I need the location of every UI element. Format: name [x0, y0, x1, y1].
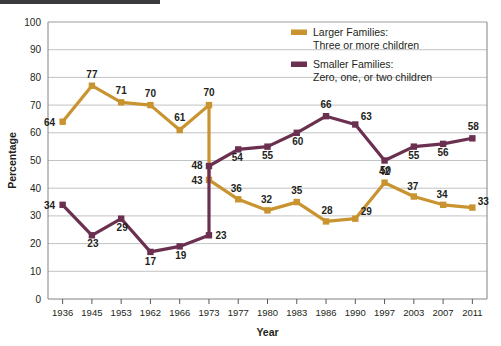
y-tick-label-40: 40	[30, 183, 42, 194]
y-tick-label-10: 10	[30, 266, 42, 277]
top-decorative-rule	[0, 0, 160, 4]
y-tick-label-0: 0	[35, 294, 41, 305]
data-label-smaller-families: 60	[292, 136, 304, 147]
data-label-smaller-families: 54	[232, 152, 244, 163]
x-tick-label-1973: 1973	[198, 307, 219, 318]
x-tick-label-1980: 1980	[257, 307, 278, 318]
data-label-larger-families: 70	[145, 88, 157, 99]
y-axis-title: Percentage	[6, 132, 18, 189]
data-marker-smaller-families	[323, 113, 329, 119]
data-label-larger-families: 61	[174, 112, 186, 123]
legend-label-line2: Zero, one, or two children	[313, 71, 432, 83]
x-tick-label-1966: 1966	[169, 307, 190, 318]
data-label-smaller-families: 19	[175, 250, 187, 261]
y-tick-label-30: 30	[30, 210, 42, 221]
data-label-larger-families: 33	[478, 196, 490, 207]
data-label-larger-families: 34	[437, 189, 449, 200]
data-label-larger-families: 32	[261, 194, 273, 205]
data-label-smaller-families: 34	[44, 200, 56, 211]
data-marker-larger-families	[206, 102, 212, 108]
data-label-larger-families: 70	[203, 87, 215, 98]
data-marker-larger-families	[352, 215, 358, 221]
data-label-smaller-families: 48	[191, 160, 203, 171]
data-marker-larger-families	[147, 102, 153, 108]
data-marker-larger-families	[89, 83, 95, 89]
data-marker-larger-families	[469, 204, 475, 210]
x-axis-title: Year	[256, 326, 278, 338]
data-marker-larger-families	[59, 119, 65, 125]
data-label-smaller-families: 23	[87, 238, 99, 249]
data-marker-larger-families	[440, 202, 446, 208]
legend-label-line1: Larger Families:	[313, 26, 388, 38]
legend-label-line1: Smaller Families:	[313, 58, 394, 70]
y-tick-label-20: 20	[30, 238, 42, 249]
x-tick-label-2011: 2011	[462, 307, 482, 318]
data-label-smaller-families: 63	[361, 111, 373, 122]
data-marker-smaller-families	[352, 121, 358, 127]
y-tick-label-90: 90	[30, 44, 42, 55]
x-tick-label-1997: 1997	[374, 307, 395, 318]
x-tick-label-1945: 1945	[81, 307, 102, 318]
data-marker-larger-families	[294, 199, 300, 205]
y-tick-label-80: 80	[30, 72, 42, 83]
legend-label-line2: Three or more children	[313, 39, 419, 51]
data-marker-smaller-families	[177, 243, 183, 249]
data-label-smaller-families: 56	[438, 147, 450, 158]
x-tick-label-1990: 1990	[345, 307, 366, 318]
data-label-smaller-families: 55	[262, 150, 274, 161]
data-marker-larger-families	[323, 218, 329, 224]
x-tick-label-1977: 1977	[228, 307, 249, 318]
chart-canvas: 1009080706050403020100Percentage19361945…	[0, 0, 501, 346]
data-marker-smaller-families	[59, 202, 65, 208]
data-label-larger-families: 71	[116, 85, 128, 96]
y-tick-label-50: 50	[30, 155, 42, 166]
x-tick-label-1983: 1983	[286, 307, 307, 318]
data-label-larger-families: 35	[291, 185, 303, 196]
data-marker-larger-families	[381, 179, 387, 185]
data-marker-larger-families	[118, 99, 124, 105]
data-label-larger-families: 28	[321, 205, 333, 216]
y-tick-label-60: 60	[30, 127, 42, 138]
x-tick-label-1962: 1962	[140, 307, 161, 318]
data-label-larger-families: 36	[231, 183, 243, 194]
data-marker-larger-families	[177, 127, 183, 133]
data-label-larger-families: 77	[86, 69, 98, 80]
data-label-larger-families: 43	[191, 175, 203, 186]
data-marker-smaller-families	[206, 232, 212, 238]
data-marker-smaller-families	[206, 163, 212, 169]
data-marker-smaller-families	[147, 249, 153, 255]
data-marker-larger-families	[235, 196, 241, 202]
data-label-larger-families: 37	[407, 181, 419, 192]
y-tick-label-100: 100	[24, 17, 41, 28]
data-label-smaller-families: 50	[380, 165, 392, 176]
legend-swatch-larger-families	[291, 30, 307, 36]
data-marker-smaller-families	[381, 157, 387, 163]
data-label-larger-families: 29	[361, 206, 373, 217]
family-size-line-chart: 1009080706050403020100Percentage19361945…	[0, 0, 501, 346]
x-tick-label-1936: 1936	[52, 307, 73, 318]
data-marker-larger-families	[264, 207, 270, 213]
data-label-smaller-families: 55	[408, 150, 420, 161]
data-label-larger-families: 64	[44, 117, 56, 128]
y-tick-label-70: 70	[30, 100, 42, 111]
legend-swatch-smaller-families	[291, 62, 307, 68]
x-tick-label-1986: 1986	[315, 307, 336, 318]
x-tick-label-1953: 1953	[111, 307, 132, 318]
data-label-smaller-families: 23	[215, 230, 227, 241]
x-tick-label-2003: 2003	[403, 307, 424, 318]
data-label-smaller-families: 66	[320, 99, 332, 110]
data-label-smaller-families: 17	[145, 256, 157, 267]
data-marker-smaller-families	[469, 135, 475, 141]
data-label-smaller-families: 58	[468, 121, 480, 132]
data-marker-larger-families	[411, 193, 417, 199]
data-label-smaller-families: 29	[117, 222, 129, 233]
x-tick-label-2007: 2007	[433, 307, 454, 318]
